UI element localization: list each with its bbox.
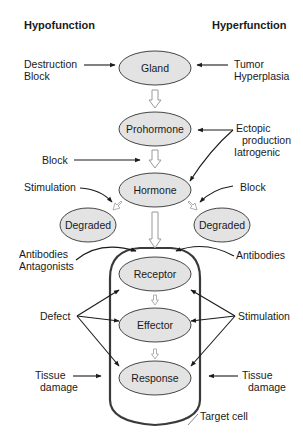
node-degraded-left-label: Degraded	[65, 219, 111, 231]
hollow-arrow-hormone-degraded-right	[188, 201, 197, 210]
label-stimulation-left: Stimulation	[24, 181, 76, 193]
node-prohormone-label: Prohormone	[126, 123, 184, 135]
node-prohormone: Prohormone	[119, 112, 191, 146]
node-response: Response	[119, 361, 191, 395]
arrow-antibodies-left-receptor	[76, 247, 136, 260]
header-hyperfunction: Hyperfunction	[212, 19, 287, 31]
label-ectopic: Ectopic	[236, 122, 270, 134]
hollow-arrow-hormone-receptor	[149, 212, 161, 248]
label-tissue-right: Tissue	[242, 369, 273, 381]
arrow-stimulation-hormone	[80, 188, 112, 202]
label-destruction: Destruction	[24, 58, 77, 70]
node-gland: Gland	[119, 51, 191, 85]
node-receptor: Receptor	[119, 257, 191, 291]
arrow-stimulation-receptor	[191, 290, 235, 316]
node-degraded-right: Degraded	[194, 208, 250, 242]
node-receptor-label: Receptor	[134, 268, 177, 280]
label-iatrogenic: Iatrogenic	[234, 146, 280, 158]
label-stimulation-right: Stimulation	[238, 310, 290, 322]
arrow-defect-effector	[77, 316, 119, 321]
label-target-cell: Target cell	[200, 410, 248, 422]
hollow-arrow-receptor-effector	[152, 295, 159, 305]
node-effector-label: Effector	[137, 319, 173, 331]
arrow-block-hormone	[200, 186, 233, 202]
arrow-defect-receptor	[77, 290, 119, 316]
hollow-arrow-hormone-degraded-left	[113, 201, 122, 210]
label-tissue-left: Tissue	[35, 369, 66, 381]
label-block-right: Block	[240, 181, 266, 193]
arrow-stimulation-effector	[191, 316, 235, 321]
node-degraded-right-label: Degraded	[199, 219, 245, 231]
node-gland-label: Gland	[141, 62, 169, 74]
label-block-prohormone: Block	[42, 154, 68, 166]
hollow-arrow-prohormone-hormone	[149, 150, 161, 168]
arrow-stimulation-response	[191, 316, 235, 366]
label-block-gland: Block	[24, 70, 50, 82]
node-hormone: Hormone	[119, 173, 191, 207]
node-degraded-left: Degraded	[60, 208, 116, 242]
label-defect: Defect	[40, 310, 70, 322]
node-response-label: Response	[131, 372, 178, 384]
node-hormone-label: Hormone	[133, 184, 176, 196]
label-antibodies-left: Antibodies	[19, 248, 68, 260]
hollow-arrow-effector-response	[152, 349, 159, 359]
node-effector: Effector	[119, 308, 191, 342]
label-damage-right: damage	[248, 381, 286, 393]
label-antibodies-right: Antibodies	[236, 249, 285, 261]
hollow-arrow-gland-prohormone	[149, 90, 161, 108]
label-hyperplasia: Hyperplasia	[234, 70, 289, 82]
arrow-defect-response	[77, 316, 119, 366]
arrow-ectopic-hormone	[190, 130, 233, 181]
label-tumor: Tumor	[234, 58, 264, 70]
label-damage-left: damage	[40, 381, 78, 393]
label-antagonists: Antagonists	[19, 260, 74, 272]
header-hypofunction: Hypofunction	[24, 19, 95, 31]
label-production: production	[242, 134, 291, 146]
